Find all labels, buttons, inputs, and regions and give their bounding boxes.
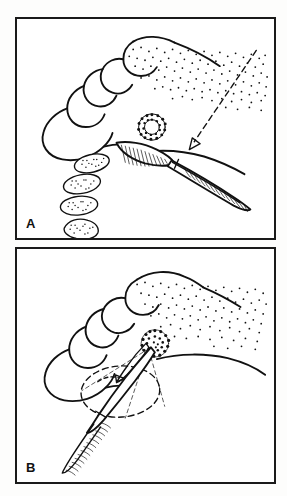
panel-b-illustration [17, 249, 274, 482]
palatal-contour-b [157, 287, 265, 374]
graft-strip [73, 151, 112, 176]
donor-site-ring-a [137, 113, 167, 140]
panel-a-label: A [26, 217, 35, 230]
graft-strips-a [59, 151, 111, 238]
pointer-arrow-a [189, 50, 256, 149]
scalpel-blade-a [116, 142, 174, 166]
gingival-margin-a [43, 37, 175, 160]
graft-strip [59, 194, 98, 216]
scalpel-handle-a [168, 159, 251, 211]
panel-a: A [15, 17, 276, 240]
panel-a-illustration [17, 19, 274, 238]
panel-b: B [15, 247, 276, 484]
graft-strip [62, 171, 102, 196]
panel-b-label: B [26, 461, 35, 474]
stipple-field-a [128, 47, 268, 112]
figure-page: A [0, 0, 287, 496]
graft-strip [64, 219, 98, 238]
